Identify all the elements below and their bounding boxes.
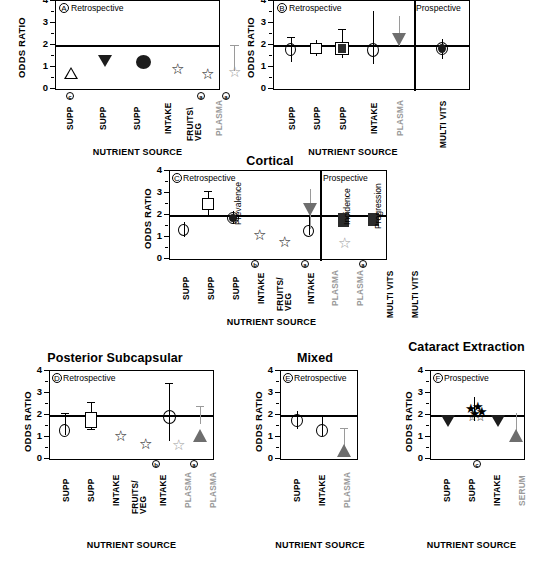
panel-f-minor-tick (426, 381, 429, 382)
panel-a-plot-frame: ☆ ☆ ☆ (55, 0, 220, 90)
panel-c: Cortical ODDS RATIO 4 3 2 1 0 ☆ ☆ ☆ (120, 155, 420, 335)
panel-f-cluster-star: ☆ (475, 410, 486, 425)
panel-a-marker-0 (64, 67, 78, 79)
panel-c-xcat-7: PLASMA (356, 270, 365, 306)
panel-c-xcat-6: PLASMA (331, 270, 340, 306)
panel-b-plot-frame (273, 0, 470, 90)
panel-c-footnote-3: b (251, 260, 259, 268)
panel-f-ytick-3: 3 (413, 388, 423, 396)
panel-b-minor-tick (269, 11, 272, 12)
panel-e-section-retrospective: Retrospective (294, 373, 347, 383)
panel-c-ytick-0: 0 (152, 254, 162, 262)
panel-c-minor-tick (165, 203, 168, 204)
panel-f-x-axis-title: NUTRIENT SOURCE (405, 540, 538, 550)
panel-d-xcat-4: INTAKE (159, 475, 168, 506)
panel-a-minor-tick (51, 55, 54, 56)
panel-a-footnote-0: c (66, 92, 74, 100)
panel-a-marker-2 (136, 55, 151, 69)
panel-d-ytick-1: 1 (32, 432, 42, 440)
panel-e-minor-tick (276, 403, 279, 404)
panel-b-errorbar-cap-0 (287, 37, 295, 38)
panel-b-section-divider (414, 1, 416, 91)
panel-b-marker-1 (310, 43, 322, 54)
panel-f-minor-tick (426, 447, 429, 448)
panel-a-ytick-1: 1 (38, 62, 48, 70)
panel-b-xcat-0: SUPP (288, 107, 297, 130)
panel-c-section-retrospective: Retrospective (183, 173, 236, 183)
panel-d-xcat-0: SUPP (62, 479, 71, 502)
panel-c-marker-6 (303, 203, 317, 216)
panel-d-marker-3: ☆ (139, 436, 152, 451)
panel-a-minor-tick (51, 33, 54, 34)
panel-f-footnote-1: c (473, 460, 481, 468)
panel-b-xcat-4: PLASMA (396, 100, 405, 136)
panel-e-xcat-1: INTAKE (318, 475, 327, 506)
panel-e: Mixed ODDS RATIO 4 3 2 1 0 E Retrospecti… (245, 352, 385, 564)
panel-b-xcat-3: INTAKE (370, 103, 379, 134)
panel-a-ytick-4: 4 (38, 0, 48, 4)
panel-a-reference-line (56, 45, 219, 47)
panel-d-errorbar-cap-1b (87, 429, 95, 430)
panel-e-letter: E (283, 373, 293, 383)
panel-a-section-retrospective: Retrospective (71, 3, 124, 13)
panel-c-annotation-progression: Progression (373, 183, 383, 229)
panel-d-plot-frame: ☆ ☆ ☆ (49, 370, 214, 460)
panel-d-section-retrospective: Retrospective (63, 373, 116, 383)
panel-b-xcat-2: SUPP (339, 107, 348, 130)
panel-f-errorbar-1 (474, 397, 475, 421)
panel-d-letter: D (52, 373, 62, 383)
panel-c-xcat-5: INTAKE (307, 273, 316, 304)
panel-d-marker-4 (163, 410, 176, 424)
panel-d-marker-1 (85, 412, 97, 428)
panel-f-marker-2 (491, 415, 505, 427)
panel-e-errorbar-cap-1 (318, 415, 326, 416)
panel-d-ytick-4: 4 (32, 366, 42, 374)
panel-e-marker-1 (316, 424, 328, 437)
panel-d-ytick-0: 0 (32, 454, 42, 462)
panel-b-marker-3 (367, 43, 379, 57)
panel-b-letter: B (277, 3, 287, 13)
panel-e-xcat-2: PLASMA (343, 472, 352, 508)
panel-f-letter: F (433, 373, 443, 383)
panel-d-title: Posterior Subcapsular (10, 352, 220, 364)
panel-c-ytick-4: 4 (152, 166, 162, 174)
panel-b-ytick-2: 2 (256, 40, 266, 48)
panel-f-ytick-2: 2 (413, 410, 423, 418)
panel-d-footnote-5: a (190, 460, 198, 468)
panel-b-ytick-1: 1 (256, 62, 266, 70)
panel-f-ytick-1: 1 (413, 432, 423, 440)
panel-b-errorbar-cap-2 (338, 29, 346, 30)
panel-d-xcat-3: FRUITS/VEG (131, 470, 147, 514)
panel-a-ytick-2: 2 (38, 40, 48, 48)
panel-f-xcat-3: SERUM (518, 475, 527, 506)
panel-b-marker-2 (338, 44, 346, 53)
panel-b-xcat-1: SUPP (313, 107, 322, 130)
panel-f-marker-0 (441, 415, 455, 427)
panel-d-errorbar-6 (200, 406, 201, 424)
panel-a-xcat-0: SUPP (66, 107, 75, 130)
panel-d-footnote-4: b (152, 460, 160, 468)
panel-a-ytick-3: 3 (38, 18, 48, 26)
panel-a-footnote-4: a (197, 92, 205, 100)
panel-f-title: Cataract Extraction (395, 340, 538, 354)
panel-d-xcat-1: SUPP (87, 479, 96, 502)
panel-d-marker-0 (59, 424, 70, 437)
panel-e-title: Mixed (245, 352, 385, 364)
panel-b-minor-tick (269, 33, 272, 34)
panel-a-xcat-5: PLASMA (215, 100, 224, 136)
panel-a-xcat-2: SUPP (133, 107, 142, 130)
panel-c-annotation-prevalence: Prevalence (233, 182, 243, 225)
panel-f-xcat-2: INTAKE (493, 475, 502, 506)
panel-b: ODDS RATIO 4 3 2 1 0 B Retrospective Pro… (232, 0, 538, 150)
panel-d-x-axis-title: NUTRIENT SOURCE (49, 540, 214, 550)
panel-b-marker-0 (285, 43, 296, 56)
panel-a-letter: A (59, 3, 69, 13)
panel-e-marker-0 (291, 414, 303, 427)
panel-e-minor-tick (276, 425, 279, 426)
panel-c-footnote-7: a (359, 260, 367, 268)
panel-d: Posterior Subcapsular ODDS RATIO 4 3 2 1… (0, 352, 225, 564)
panel-a-marker-3: ☆ (171, 61, 184, 76)
panel-d-errorbar-cap-1 (87, 402, 95, 403)
panel-c-xcat-1: SUPP (207, 277, 216, 300)
panel-c-minor-tick (165, 247, 168, 248)
